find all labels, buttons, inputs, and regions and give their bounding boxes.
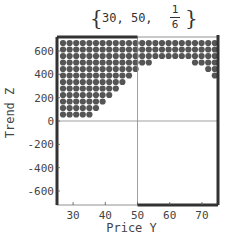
data-point — [185, 53, 191, 59]
data-point — [93, 92, 99, 98]
data-point — [80, 46, 86, 52]
data-point — [113, 40, 119, 46]
data-point — [106, 59, 112, 65]
data-point — [67, 98, 73, 104]
data-point — [86, 85, 92, 91]
data-point — [192, 40, 198, 46]
data-point — [106, 53, 112, 59]
data-point — [100, 46, 106, 52]
data-point — [93, 72, 99, 78]
data-point — [93, 79, 99, 85]
data-point — [192, 53, 198, 59]
data-point — [60, 66, 66, 72]
data-point — [86, 105, 92, 111]
data-point — [80, 85, 86, 91]
data-point — [113, 72, 119, 78]
data-point — [93, 53, 99, 59]
data-point — [106, 92, 112, 98]
data-point — [100, 66, 106, 72]
data-point — [93, 85, 99, 91]
data-point — [179, 40, 185, 46]
data-point — [80, 66, 86, 72]
data-point — [80, 53, 86, 59]
data-point — [152, 53, 158, 59]
data-point — [80, 72, 86, 78]
data-point — [159, 46, 165, 52]
data-point — [126, 40, 132, 46]
data-point — [113, 53, 119, 59]
data-point — [185, 46, 191, 52]
data-point — [205, 59, 211, 65]
y-tick-label: -600 — [28, 185, 55, 198]
y-tick-label: -200 — [28, 138, 55, 151]
data-point — [73, 59, 79, 65]
data-point — [60, 92, 66, 98]
data-point — [60, 53, 66, 59]
data-point — [73, 40, 79, 46]
data-point — [166, 40, 172, 46]
data-point — [100, 72, 106, 78]
data-point — [67, 46, 73, 52]
data-point — [172, 40, 178, 46]
data-point — [113, 66, 119, 72]
data-point — [80, 98, 86, 104]
data-point — [86, 111, 92, 117]
scatter-plot: 6004002000-200-400-6003040506070Price YT… — [0, 0, 228, 236]
data-point — [80, 40, 86, 46]
data-point — [73, 111, 79, 117]
data-point — [80, 79, 86, 85]
x-tick-label: 70 — [195, 209, 208, 222]
data-point — [60, 79, 66, 85]
data-point — [172, 53, 178, 59]
data-point — [67, 53, 73, 59]
data-point — [73, 105, 79, 111]
data-point — [93, 59, 99, 65]
data-point — [60, 111, 66, 117]
data-point — [126, 66, 132, 72]
data-point — [67, 72, 73, 78]
data-point — [126, 59, 132, 65]
data-point — [100, 92, 106, 98]
data-point — [93, 40, 99, 46]
data-point — [106, 72, 112, 78]
data-point — [199, 53, 205, 59]
data-point — [159, 40, 165, 46]
data-point — [106, 85, 112, 91]
y-axis-label: Trend Z — [3, 88, 17, 139]
data-point — [93, 66, 99, 72]
data-point — [67, 111, 73, 117]
data-point — [67, 79, 73, 85]
data-point — [166, 53, 172, 59]
data-point — [80, 59, 86, 65]
data-point — [119, 59, 125, 65]
data-point — [192, 59, 198, 65]
data-point — [179, 46, 185, 52]
data-point — [67, 85, 73, 91]
data-point — [67, 105, 73, 111]
y-tick-label: 400 — [34, 68, 54, 81]
data-point — [119, 66, 125, 72]
data-point — [139, 40, 145, 46]
data-point — [113, 46, 119, 52]
data-point — [126, 72, 132, 78]
data-point — [113, 59, 119, 65]
data-point — [100, 98, 106, 104]
data-point — [106, 79, 112, 85]
data-point — [152, 46, 158, 52]
data-point — [100, 79, 106, 85]
data-points — [60, 40, 218, 118]
data-point — [139, 53, 145, 59]
data-point — [146, 53, 152, 59]
data-point — [100, 53, 106, 59]
data-point — [80, 111, 86, 117]
data-point — [73, 72, 79, 78]
data-point — [93, 98, 99, 104]
y-tick-label: 0 — [47, 115, 54, 128]
data-point — [67, 66, 73, 72]
data-point — [166, 46, 172, 52]
data-point — [205, 66, 211, 72]
data-point — [159, 53, 165, 59]
data-point — [119, 53, 125, 59]
data-point — [119, 40, 125, 46]
data-point — [60, 85, 66, 91]
